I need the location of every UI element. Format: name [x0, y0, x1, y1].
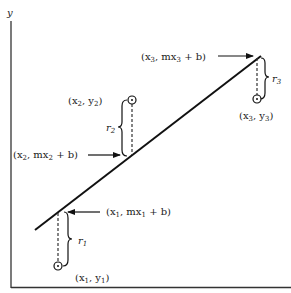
regression-diagram: y (x1, mx1 + b) r1 (x1, y1) (x2, mx2 + b…: [0, 0, 291, 293]
data-point-2-dot: [131, 99, 133, 101]
brace-r3: [260, 58, 269, 99]
line-point-3-label: (x3, mx3 + b): [141, 51, 206, 64]
data-point-2-label: (x2, y2): [68, 95, 103, 108]
residual-label-3: r3: [272, 73, 282, 86]
residual-label-2: r2: [106, 122, 116, 135]
brace-r1: [63, 212, 72, 266]
data-point-3-dot: [256, 98, 258, 100]
y-axis-label: y: [6, 7, 13, 18]
brace-r2: [118, 100, 127, 156]
residual-label-1: r1: [78, 235, 87, 248]
point-2-group: (x2, mx2 + b) r2 (x2, y2): [13, 95, 136, 162]
line-point-1-label: (x1, mx1 + b): [106, 206, 171, 219]
regression-line: [35, 56, 261, 230]
data-point-1-label: (x1, y1): [75, 272, 110, 285]
point-3-group: (x3, mx3 + b) r3 (x3, y3): [141, 51, 282, 123]
point-1-group: (x1, mx1 + b) r1 (x1, y1): [54, 206, 171, 285]
data-point-1-dot: [57, 265, 59, 267]
data-point-3-label: (x3, y3): [239, 110, 274, 123]
line-point-2-label: (x2, mx2 + b): [13, 149, 78, 162]
